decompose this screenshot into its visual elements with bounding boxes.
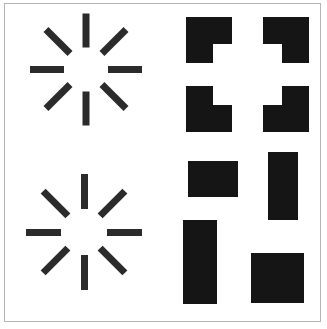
spoke-90deg [83, 13, 90, 47]
rectangle-vertical-tall [183, 220, 217, 304]
rectangle-vertical-upper [268, 152, 298, 220]
notched-square-bottom-left-fill [186, 86, 232, 132]
notched-square-bottom-right [263, 86, 309, 132]
rectangle-square-lower [251, 253, 304, 303]
panel-label-upper-left: Radial starburst pattern, upper left [0, 0, 1, 1]
spoke-180deg [30, 66, 64, 73]
figure-title: Visual perception stimuli grid [0, 0, 1, 1]
rectangle-horizontal-upper [188, 161, 238, 197]
figure-description: Two-by-two arrangement of black geometri… [0, 0, 1, 1]
notched-square-bottom-left [186, 86, 232, 132]
figure-root: Visual perception stimuli grid Two-by-tw… [0, 0, 327, 329]
notched-square-top-right [263, 17, 309, 63]
notched-square-top-left [186, 17, 232, 63]
panel-label-lower-left: Radial starburst pattern, lower left [0, 0, 1, 1]
panel-label-lower-right: Four solid black rectangles in varied or… [0, 0, 1, 1]
spoke-90deg [81, 174, 88, 209]
spoke-180deg [26, 229, 61, 236]
notched-square-top-right-fill [263, 17, 309, 63]
spoke-0deg [108, 66, 142, 73]
panel-label-upper-right: Four notched squares forming an illusory… [0, 0, 1, 1]
spoke-270deg [81, 255, 88, 290]
notched-square-top-left-fill [186, 17, 232, 63]
spoke-270deg [83, 91, 90, 125]
spoke-0deg [107, 229, 142, 236]
notched-square-bottom-right-fill [263, 86, 309, 132]
